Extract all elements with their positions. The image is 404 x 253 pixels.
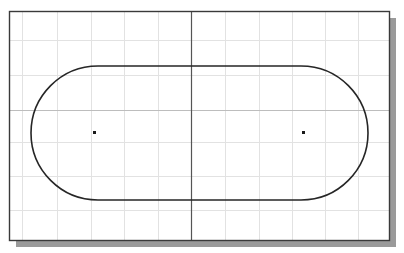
left-center-point bbox=[93, 131, 96, 134]
right-center-point bbox=[302, 131, 305, 134]
drawing-area bbox=[9, 11, 389, 240]
sketch-canvas bbox=[0, 0, 404, 253]
